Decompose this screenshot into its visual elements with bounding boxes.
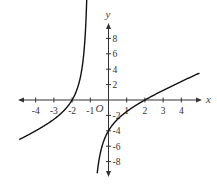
- function-graph: x -4-3-2-11234 y 8642-2-4-6-8 O: [0, 0, 217, 187]
- y-axis-arrow-up-icon: [106, 23, 111, 29]
- y-axis: y 8642-2-4-6-8: [105, 8, 121, 177]
- y-tick-label: 4: [113, 65, 118, 75]
- x-tick-label: 2: [143, 106, 148, 116]
- left-branch-curve: [19, 0, 87, 140]
- y-tick-label: -6: [113, 142, 121, 152]
- y-tick-label: 6: [113, 49, 118, 59]
- x-axis-arrow-right-icon: [196, 98, 202, 103]
- x-tick-label: 4: [179, 106, 184, 116]
- x-axis-arrow-left-icon: [18, 98, 24, 103]
- y-axis-arrow-down-icon: [106, 171, 111, 177]
- x-axis-label: x: [205, 93, 211, 105]
- x-tick-label: -2: [68, 106, 76, 116]
- x-tick-label: -1: [86, 106, 94, 116]
- y-tick-label: -8: [113, 157, 121, 167]
- y-tick-label: -4: [113, 126, 121, 136]
- x-tick-label: 3: [161, 106, 166, 116]
- x-tick-label: -4: [32, 106, 40, 116]
- origin-label: O: [96, 102, 104, 114]
- x-tick-label: -3: [50, 106, 58, 116]
- y-tick-label: 2: [113, 80, 118, 90]
- y-axis-label: y: [105, 8, 111, 20]
- y-tick-label: 8: [113, 34, 118, 44]
